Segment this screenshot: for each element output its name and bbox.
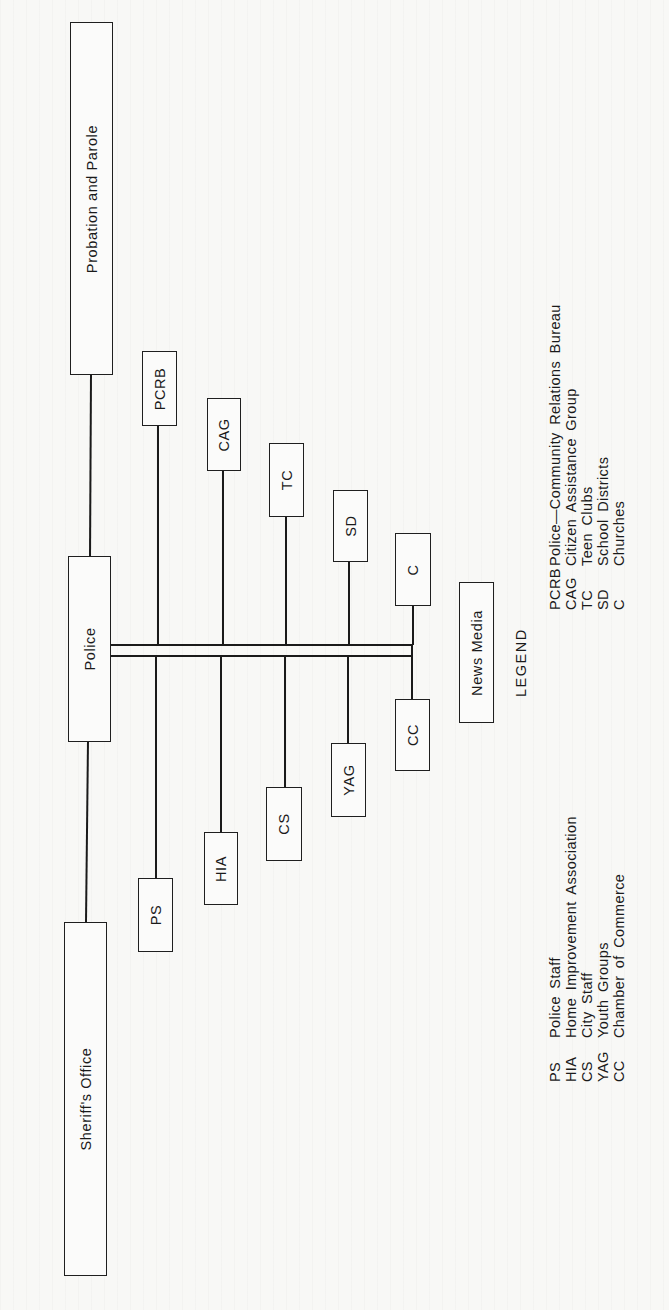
node-ps: PS	[138, 878, 173, 952]
legend-entry: CChurches	[611, 280, 627, 610]
legend-abbr: C	[611, 566, 627, 610]
legend-abbr: YAG	[595, 1038, 611, 1082]
node-label: Sheriff's Office	[78, 1048, 94, 1151]
node-probation-and-parole: Probation and Parole	[70, 22, 113, 375]
node-label: CAG	[216, 418, 232, 451]
node-c: C	[395, 533, 431, 606]
legend-full: Youth Groups	[595, 942, 611, 1038]
node-sheriffs-office: Sheriff's Office	[64, 922, 107, 1276]
legend-left-column: PSPolice Staff HIAHome Improvement Assoc…	[547, 762, 627, 1082]
node-cc: CC	[395, 699, 430, 771]
node-label: HIA	[213, 856, 229, 882]
node-cs: CS	[266, 787, 302, 861]
node-label: CC	[405, 724, 421, 746]
legend-right-column: PCRBPolice—Community Relations Bureau CA…	[547, 280, 627, 610]
node-cag: CAG	[207, 398, 241, 471]
legend-abbr: PS	[547, 1038, 563, 1082]
node-label: C	[405, 564, 421, 575]
node-police: Police	[68, 556, 111, 742]
legend-full: Teen Clubs	[579, 486, 595, 566]
node-label: YAG	[341, 764, 357, 795]
node-label: News Media	[469, 610, 485, 696]
legend-abbr: HIA	[563, 1038, 579, 1082]
legend-full: City Staff	[579, 972, 595, 1038]
node-tc: TC	[269, 443, 304, 517]
legend-entry: SDSchool Districts	[595, 280, 611, 610]
legend-full: Police Staff	[547, 957, 563, 1038]
connector-probation-police	[90, 374, 91, 556]
diagram-page: Probation and Parole Police Sheriff's Of…	[0, 0, 669, 1310]
legend-full: School Districts	[595, 457, 611, 566]
node-news-media: News Media	[459, 582, 494, 723]
legend-entry: CAGCitizen Assistance Group	[563, 280, 579, 610]
legend-entry: TCTeen Clubs	[579, 280, 595, 610]
node-label: PS	[148, 905, 164, 926]
node-label: Police	[82, 627, 98, 670]
node-label: CS	[276, 813, 292, 834]
legend-entry: CCChamber of Commerce	[611, 762, 627, 1082]
node-label: Probation and Parole	[84, 124, 100, 272]
legend-title: LEGEND	[513, 628, 529, 697]
node-hia: HIA	[204, 832, 238, 905]
node-label: PCRB	[152, 367, 168, 410]
legend-full: Chamber of Commerce	[611, 874, 627, 1038]
legend-entry: PSPolice Staff	[547, 762, 563, 1082]
legend-abbr: CAG	[563, 566, 579, 610]
legend-entry: PCRBPolice—Community Relations Bureau	[547, 280, 563, 610]
node-label: SD	[343, 515, 359, 536]
node-yag: YAG	[331, 743, 366, 817]
legend-full: Citizen Assistance Group	[563, 388, 579, 566]
legend-entry: CSCity Staff	[579, 762, 595, 1082]
node-pcrb: PCRB	[142, 351, 177, 426]
legend-entry: HIAHome Improvement Association	[563, 762, 579, 1082]
legend-entry: YAGYouth Groups	[595, 762, 611, 1082]
connector-police-sheriff	[86, 741, 88, 922]
legend-abbr: SD	[595, 566, 611, 610]
legend-full: Police—Community Relations Bureau	[547, 304, 563, 566]
node-label: TC	[279, 470, 295, 491]
node-sd: SD	[333, 490, 368, 562]
legend-abbr: CS	[579, 1038, 595, 1082]
legend-abbr: TC	[579, 566, 595, 610]
legend-abbr: PCRB	[547, 566, 563, 610]
legend-full: Churches	[611, 501, 627, 566]
legend-abbr: CC	[611, 1038, 627, 1082]
legend-full: Home Improvement Association	[563, 816, 579, 1038]
